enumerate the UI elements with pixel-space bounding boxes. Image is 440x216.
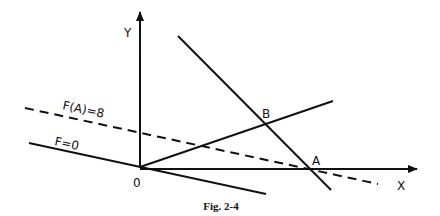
x-axis-label: X: [397, 179, 405, 193]
diagram-canvas: Y X 0 B A F=0 F(A)=8 Fig. 2-4: [0, 0, 440, 216]
y-axis-label: Y: [123, 26, 132, 40]
ray-OB: [140, 101, 333, 167]
figure-caption: Fig. 2-4: [203, 200, 239, 212]
constraint-line-steep: [178, 36, 331, 190]
point-A-label: A: [312, 154, 321, 168]
origin-label: 0: [133, 176, 141, 190]
objective-A-label: F(A)=8: [61, 98, 105, 120]
point-B-label: B: [262, 107, 270, 121]
objective-zero-label: F=0: [53, 134, 80, 153]
